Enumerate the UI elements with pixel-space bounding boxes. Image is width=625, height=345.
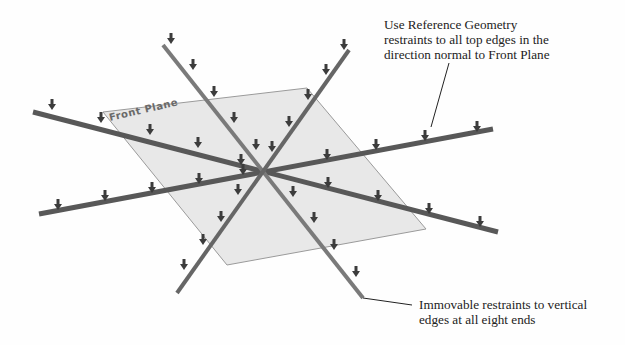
callout-immovable-restraints: Immovable restraints to vertical edges a… bbox=[419, 297, 587, 327]
down-arrow-icon bbox=[180, 259, 188, 270]
beams-group bbox=[33, 45, 498, 298]
down-arrow-icon bbox=[189, 59, 197, 70]
callout-reference-geometry: Use Reference Geometry restraints to all… bbox=[384, 17, 550, 62]
callout-top-line-2: restraints to all top edges in the bbox=[384, 32, 550, 47]
callout-bottom-line-1: Immovable restraints to vertical bbox=[419, 297, 587, 312]
down-arrow-icon bbox=[352, 266, 360, 277]
diagram-canvas: Front Plane Use Reference Geometry restr… bbox=[0, 0, 625, 345]
callout-top-line-3: direction normal to Front Plane bbox=[384, 47, 550, 62]
down-arrow-icon bbox=[48, 99, 56, 110]
down-arrow-icon bbox=[322, 64, 330, 75]
down-arrow-icon bbox=[340, 39, 348, 50]
callout-top-line-1: Use Reference Geometry bbox=[384, 17, 550, 32]
down-arrow-icon bbox=[167, 33, 175, 44]
callout-bottom-line-2: edges at all eight ends bbox=[419, 312, 587, 327]
leader-line bbox=[363, 298, 412, 305]
down-arrow-icon bbox=[210, 86, 218, 97]
leader-line bbox=[431, 63, 449, 127]
